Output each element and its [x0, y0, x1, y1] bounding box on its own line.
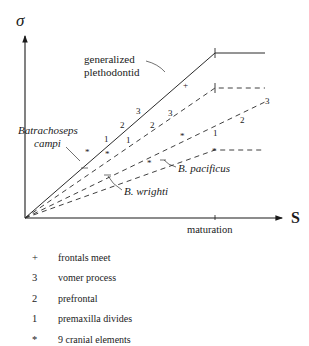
y-axis-symbol: σ: [16, 11, 25, 30]
marker-star: *: [105, 149, 110, 159]
legend-label: premaxilla divides: [58, 313, 132, 324]
legend-item-prefrontal: 2 prefrontal: [32, 288, 292, 309]
asterisk-icon: *: [32, 334, 58, 345]
marker-one: 1: [104, 134, 109, 144]
legend-item-vomer-process: 3 vomer process: [32, 268, 292, 289]
marker-star: *: [147, 158, 152, 168]
two-icon: 2: [32, 293, 58, 304]
svg-text:plethodontid: plethodontid: [84, 66, 140, 78]
three-icon: 3: [32, 272, 58, 283]
svg-text:generalized: generalized: [84, 53, 135, 65]
label-batrachoseps-campi: Batrachoseps campi: [18, 124, 88, 168]
markers-generalized: * 1 2 3 +: [85, 80, 188, 157]
marker-one: 1: [213, 128, 218, 138]
maturation-label: maturation: [187, 224, 233, 235]
markers-wrighti: * * 1 2 3: [147, 96, 270, 168]
marker-three: 3: [265, 96, 270, 106]
legend-item-premaxilla-divides: 1 premaxilla divides: [32, 309, 292, 330]
marker-three: 3: [136, 106, 141, 116]
marker-plus: +: [183, 80, 188, 90]
marker-star-2: *: [180, 131, 185, 141]
marker-two: 2: [120, 120, 125, 130]
label-b-pacificus: B. pacificus: [160, 160, 230, 174]
marker-star: *: [85, 147, 90, 157]
line-b-wrighti: [25, 101, 267, 218]
x-axis-symbol: S: [291, 209, 300, 226]
marker-one: 1: [126, 135, 131, 145]
marker-star: *: [212, 146, 217, 156]
line-b-pacificus: [25, 150, 265, 218]
svg-text:B. pacificus: B. pacificus: [178, 162, 230, 174]
legend-item-cranial-elements: * 9 cranial elements: [32, 329, 292, 346]
legend-label: 9 cranial elements: [58, 334, 131, 345]
legend: + frontals meet 3 vomer process 2 prefro…: [32, 247, 292, 346]
plus-icon: +: [32, 252, 58, 263]
marker-two: 2: [240, 115, 245, 125]
legend-item-frontals-meet: + frontals meet: [32, 247, 292, 268]
marker-two: 2: [150, 120, 155, 130]
x-axis: [25, 215, 282, 220]
marker-three: 3: [168, 108, 173, 118]
label-generalized-plethodontid: generalized plethodontid: [84, 53, 165, 78]
one-icon: 1: [32, 313, 58, 324]
legend-label: prefrontal: [58, 293, 97, 304]
line-batrachoseps-campi: [25, 83, 265, 218]
legend-label: frontals meet: [58, 252, 110, 263]
svg-text:B. wrighti: B. wrighti: [124, 185, 168, 197]
svg-text:campi: campi: [34, 137, 61, 149]
legend-label: vomer process: [58, 272, 116, 283]
svg-text:Batrachoseps: Batrachoseps: [18, 124, 78, 136]
markers-pacificus: *: [212, 146, 217, 156]
